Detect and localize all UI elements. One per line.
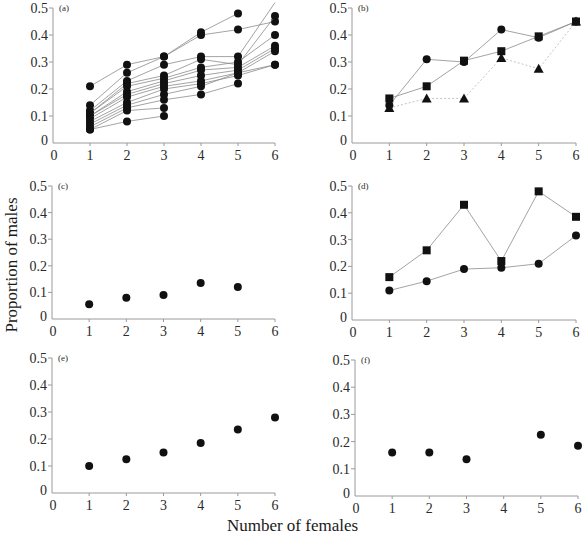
y-tick-label: 0: [340, 310, 347, 325]
x-tick-label: 6: [272, 498, 279, 513]
x-tick-label: 6: [573, 148, 580, 163]
x-tick-label: 3: [161, 148, 168, 163]
data-point-square: [423, 82, 431, 90]
data-point-square: [385, 273, 393, 281]
series-line: [389, 22, 576, 99]
x-tick-label: 5: [234, 498, 241, 513]
y-tick-label: 0.3: [330, 233, 348, 248]
data-point-circle: [160, 291, 168, 299]
data-point-circle: [197, 439, 205, 447]
data-point-circle: [385, 287, 393, 295]
x-tick-label: 4: [498, 325, 505, 340]
y-tick-label: 0.2: [333, 435, 351, 450]
y-tick-label: 0.1: [330, 286, 348, 301]
x-tick-label: 3: [461, 148, 468, 163]
panel-label: (e): [58, 353, 68, 363]
data-point-circle: [497, 26, 505, 34]
data-point-circle: [160, 96, 168, 104]
x-tick-label: 1: [86, 324, 93, 339]
data-point-circle: [234, 9, 242, 17]
data-point-circle: [271, 61, 279, 69]
data-point-circle: [160, 61, 168, 69]
data-point-circle: [271, 47, 279, 55]
data-point-circle: [85, 300, 93, 308]
y-tick-label: 0.1: [333, 462, 351, 477]
x-tick-label: 2: [124, 148, 131, 163]
y-tick-label: 0.5: [30, 351, 48, 366]
x-tick-label: 1: [87, 148, 94, 163]
y-tick-label: 0.5: [330, 179, 348, 194]
y-tick-label: 0.5: [333, 353, 351, 368]
data-point-circle: [463, 455, 471, 463]
data-point-circle: [123, 117, 131, 125]
x-tick-label: 3: [461, 325, 468, 340]
panel-f: 00.10.20.30.40.50123456(f): [333, 353, 583, 516]
y-tick-label: 0.2: [31, 82, 49, 97]
panel-c: 00.10.20.30.40.50123456(c): [30, 179, 279, 339]
data-point-circle: [160, 53, 168, 61]
x-tick-label: 6: [575, 501, 582, 516]
y-tick-label: 0.4: [30, 206, 48, 221]
series-line: [90, 51, 275, 119]
x-tick-label: 0: [353, 501, 360, 516]
data-point-circle: [271, 12, 279, 20]
data-point-square: [572, 213, 580, 221]
series-line: [90, 3, 275, 111]
y-tick-label: 0.2: [330, 259, 348, 274]
y-tick-label: 0.4: [30, 378, 48, 393]
x-tick-label: 5: [535, 325, 542, 340]
data-point-circle: [160, 112, 168, 120]
data-point-circle: [234, 69, 242, 77]
series-line: [90, 35, 275, 113]
y-tick-label: 0.5: [30, 179, 48, 194]
x-tick-label: 3: [160, 324, 167, 339]
x-tick-label: 1: [86, 498, 93, 513]
panel-d: 00.10.20.30.40.50123456(d): [330, 179, 581, 340]
x-tick-label: 5: [235, 148, 242, 163]
data-point-square: [460, 57, 468, 65]
x-tick-label: 2: [123, 324, 130, 339]
y-tick-label: 0.4: [330, 206, 348, 221]
data-point-circle: [85, 462, 93, 470]
y-tick-label: 0.5: [31, 1, 49, 16]
data-point-circle: [160, 449, 168, 457]
y-tick-label: 0.3: [31, 55, 49, 70]
x-tick-label: 5: [535, 148, 542, 163]
y-tick-label: 0.2: [330, 82, 348, 97]
data-point-circle: [271, 413, 279, 421]
x-tick-label: 4: [198, 148, 205, 163]
data-point-circle: [122, 455, 130, 463]
panel-label: (b): [358, 3, 369, 13]
data-point-square: [535, 187, 543, 195]
data-point-circle: [234, 426, 242, 434]
data-point-circle: [460, 265, 468, 273]
x-tick-label: 2: [423, 325, 430, 340]
data-point-circle: [537, 431, 545, 439]
data-point-square: [423, 246, 431, 254]
y-tick-label: 0.2: [30, 432, 48, 447]
y-axis-label: Proportion of males: [2, 185, 22, 345]
y-tick-label: 0.1: [31, 109, 49, 124]
data-point-circle: [271, 31, 279, 39]
data-point-circle: [234, 283, 242, 291]
data-point-circle: [197, 31, 205, 39]
series-line: [389, 236, 576, 291]
series-line: [389, 22, 576, 106]
data-point-circle: [535, 260, 543, 268]
x-tick-label: 2: [426, 501, 433, 516]
x-tick-label: 0: [50, 324, 57, 339]
data-point-circle: [423, 55, 431, 63]
data-point-circle: [86, 126, 94, 134]
x-tick-label: 2: [423, 148, 430, 163]
data-point-circle: [572, 232, 580, 240]
y-tick-label: 0.3: [30, 405, 48, 420]
data-point-triangle: [534, 64, 544, 73]
data-point-square: [535, 32, 543, 40]
x-tick-label: 0: [50, 498, 57, 513]
data-point-circle: [122, 294, 130, 302]
data-point-circle: [197, 55, 205, 63]
x-tick-label: 4: [498, 148, 505, 163]
x-axis-label: Number of females: [0, 516, 585, 535]
x-tick-label: 0: [51, 148, 58, 163]
